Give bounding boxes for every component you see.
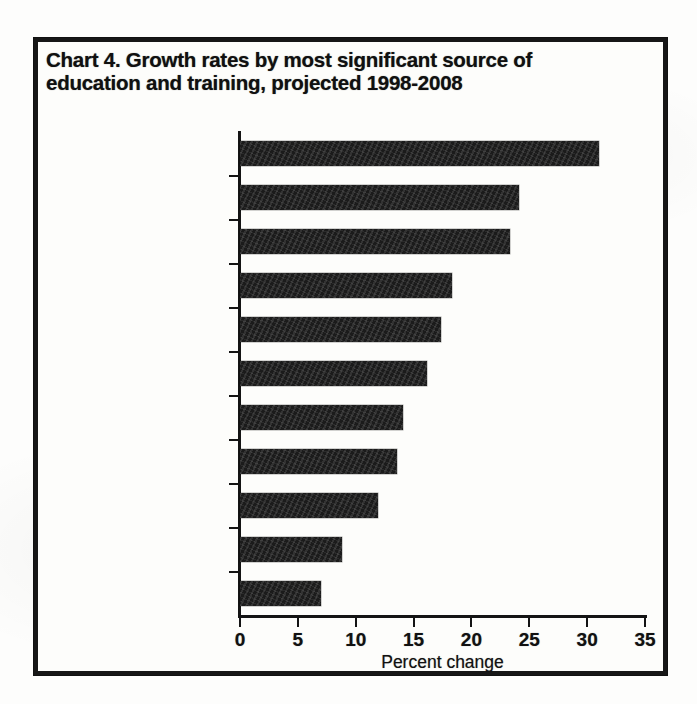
y-axis-tick	[229, 527, 239, 529]
y-axis-tick	[229, 395, 239, 397]
x-axis-tick	[297, 618, 299, 627]
x-axis-tick-label: 20	[461, 629, 482, 651]
bar	[240, 185, 519, 210]
x-axis-tick-label: 0	[235, 629, 246, 651]
chart-title-line-1: Chart 4. Growth rates by most significan…	[46, 48, 532, 71]
y-axis-tick	[229, 571, 239, 573]
bar	[240, 317, 441, 342]
bar	[240, 141, 599, 166]
plot-area: Associate degreeBachelor's degreeDoctora…	[240, 131, 645, 615]
x-axis-title: Percent change	[240, 652, 645, 673]
bar	[240, 405, 403, 430]
x-axis-tick-label: 35	[634, 629, 655, 651]
y-axis-tick	[229, 175, 239, 177]
bar	[240, 537, 342, 562]
x-axis-tick	[355, 618, 357, 627]
y-axis-tick	[229, 263, 239, 265]
x-axis-tick-label: 5	[293, 629, 304, 651]
scanned-page: Chart 4. Growth rates by most significan…	[0, 0, 697, 704]
bar	[240, 493, 378, 518]
x-axis-tick-label: 10	[345, 629, 366, 651]
y-axis-tick	[229, 219, 239, 221]
x-axis-tick-label: 30	[577, 629, 598, 651]
x-axis-tick	[413, 618, 415, 627]
bar	[240, 229, 510, 254]
chart-title: Chart 4. Growth rates by most significan…	[46, 48, 656, 94]
y-axis-tick	[229, 439, 239, 441]
y-axis-tick	[229, 351, 239, 353]
x-axis-tick-label: 15	[403, 629, 424, 651]
y-axis-tick	[229, 483, 239, 485]
bar	[240, 361, 427, 386]
x-axis-tick	[470, 618, 472, 627]
x-axis-tick	[644, 618, 646, 627]
bar	[240, 581, 321, 606]
bar	[240, 449, 397, 474]
x-axis-tick	[528, 618, 530, 627]
y-axis-tick	[229, 307, 239, 309]
bar	[240, 273, 452, 298]
x-axis-tick	[239, 618, 241, 627]
x-axis-tick-label: 25	[519, 629, 540, 651]
chart-title-line-2: education and training, projected 1998-2…	[46, 71, 462, 94]
x-axis-tick	[586, 618, 588, 627]
